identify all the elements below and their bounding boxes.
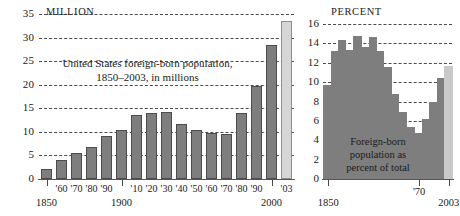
left-gridline-30 (39, 38, 294, 39)
right-ytick-0: 0 (300, 173, 319, 184)
left-xlabel-90: '90 (242, 184, 272, 194)
left-xlabel-1900: 1900 (100, 198, 144, 208)
left-xlabel-90: '90 (92, 184, 122, 194)
left-bar-90 (101, 136, 112, 179)
left-bar-1900 (116, 130, 127, 179)
right-caption-line-3: percent of total (326, 161, 430, 174)
right-xtick-mark-70 (419, 179, 420, 186)
left-axis-unit-label: MILLION (46, 6, 95, 17)
left-bar-90 (251, 86, 262, 179)
right-axis-unit-label: PERCENT (331, 6, 382, 17)
left-bar-1850 (41, 169, 52, 179)
right-ytick-10: 10 (300, 76, 319, 87)
figure-root: MILLION 05101520253035 1850'60'70'80'901… (0, 0, 460, 216)
left-ytick-10: 10 (8, 126, 34, 137)
left-bar-80 (86, 147, 97, 179)
left-bar-2000 (266, 45, 277, 179)
left-gridline-35 (39, 14, 294, 15)
left-ytick-5: 5 (8, 149, 34, 160)
right-gridline-16 (323, 24, 452, 25)
left-bar-10 (131, 115, 142, 179)
left-ytick-15: 15 (8, 102, 34, 113)
left-bar-20 (146, 113, 157, 179)
left-bar-40 (176, 124, 187, 179)
right-ytick-14: 14 (300, 37, 319, 48)
right-ytick-2: 2 (300, 154, 319, 165)
right-xtick-mark-2003 (449, 179, 450, 186)
left-chart-caption: United States foreign-born population, 1… (40, 57, 255, 84)
right-ytick-16: 16 (300, 18, 319, 29)
left-caption-line-1: United States foreign-born population, (40, 57, 255, 71)
left-ytick-30: 30 (8, 32, 34, 43)
right-xlabel-1850: 1850 (308, 198, 348, 208)
right-ytick-6: 6 (300, 115, 319, 126)
left-bar-50 (191, 130, 202, 179)
left-bar-03 (281, 21, 292, 179)
right-xlabel-70: '70 (399, 187, 439, 197)
left-xlabel-03: '03 (272, 184, 302, 194)
chart-foreign-born-millions: MILLION 05101520253035 1850'60'70'80'901… (0, 0, 300, 216)
right-xlabel-2003: 2003 (429, 198, 460, 208)
left-ytick-0: 0 (8, 173, 34, 184)
left-bar-60 (206, 133, 217, 179)
right-step-2003 (444, 66, 452, 179)
right-baseline (322, 179, 454, 180)
right-caption-line-2: population as (326, 148, 430, 161)
left-bar-70 (71, 153, 82, 179)
left-bar-60 (56, 160, 67, 179)
right-xtick-mark-1850 (328, 179, 329, 186)
left-caption-line-2: 1850–2003, in millions (40, 71, 255, 85)
left-xlabel-2000: 2000 (250, 198, 294, 208)
left-xlabel-1850: 1850 (25, 198, 69, 208)
left-bar-80 (236, 113, 247, 179)
right-caption-line-1: Foreign-born (326, 135, 430, 148)
left-bar-70 (221, 134, 232, 179)
right-ytick-4: 4 (300, 134, 319, 145)
right-chart-inline-caption: Foreign-born population as percent of to… (326, 135, 430, 174)
right-ytick-8: 8 (300, 96, 319, 107)
left-ytick-35: 35 (8, 8, 34, 19)
left-ytick-20: 20 (8, 79, 34, 90)
right-ytick-12: 12 (300, 57, 319, 68)
left-baseline (38, 179, 295, 180)
chart-foreign-born-percent: PERCENT 0246810121416 1850'702003 Foreig… (300, 0, 460, 216)
left-ytick-25: 25 (8, 55, 34, 66)
left-bar-30 (161, 112, 172, 179)
